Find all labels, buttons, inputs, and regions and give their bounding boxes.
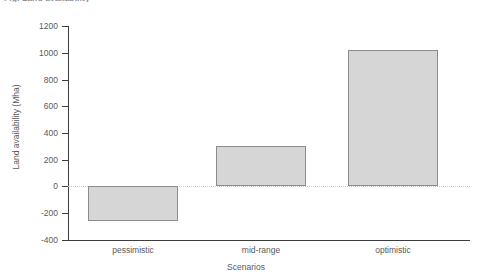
y-tick-mark [62, 53, 68, 54]
y-tick-label: 400 [44, 129, 58, 138]
bar-chart: 1200 1000 800 600 400 200 0 -200 -400 pe… [0, 0, 492, 277]
x-tick-label-mid-range: mid-range [216, 246, 306, 255]
y-tick-label: 1200 [39, 22, 58, 31]
y-tick-mark [62, 213, 68, 214]
bar-optimistic [348, 50, 438, 186]
y-tick-label: 600 [44, 102, 58, 111]
y-tick-label: -200 [41, 209, 58, 218]
y-tick-label: 800 [44, 76, 58, 85]
bar-mid-range [216, 146, 306, 186]
y-tick-mark [62, 240, 68, 241]
y-axis-line [68, 26, 69, 241]
y-tick-mark [62, 160, 68, 161]
y-axis-title: Land availability (Mha) [11, 67, 21, 187]
y-tick-mark [62, 80, 68, 81]
y-tick-mark [62, 106, 68, 107]
y-tick-label: 1000 [39, 49, 58, 58]
y-tick-label: 0 [53, 182, 58, 191]
x-tick-label-pessimistic: pessimistic [88, 246, 178, 255]
y-tick-mark [62, 26, 68, 27]
x-axis-title: Scenarios [0, 262, 492, 272]
y-tick-label: -400 [41, 236, 58, 245]
y-tick-mark [62, 133, 68, 134]
x-tick-label-optimistic: optimistic [348, 246, 438, 255]
bar-pessimistic [88, 186, 178, 221]
y-tick-label: 200 [44, 156, 58, 165]
x-axis-line [68, 240, 470, 241]
